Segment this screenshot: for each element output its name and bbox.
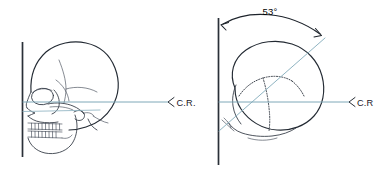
frontal-bone-profile [26, 92, 31, 108]
maxillary-teeth-occlusal-line [28, 129, 62, 130]
nasal-bone [27, 108, 35, 116]
right-panel-superior-skull: 53° C.R [219, 6, 374, 165]
cranial-vault-outline [31, 42, 118, 130]
central-ray-arrowhead-left [168, 98, 174, 107]
left-panel-lateral-skull: C.R. [23, 42, 196, 157]
mandible-angle-detail [62, 135, 72, 138]
skull-positioning-figure: C.R. 53° [0, 0, 376, 172]
central-ray-label-right: C.R [357, 98, 374, 108]
mandibular-teeth [32, 131, 57, 138]
maxilla-body [28, 116, 58, 123]
central-ray-label-left: C.R. [177, 98, 196, 108]
mandibular-alveolar-ridge [28, 137, 62, 138]
maxillary-alveolar-ridge [28, 123, 62, 124]
angle-label: 53° [263, 6, 278, 17]
cranial-vault-superior-outline [232, 41, 323, 130]
angle-arrowhead-left [221, 23, 229, 31]
mandible-superior-arc [248, 138, 277, 140]
central-ray-arrowhead-right [349, 98, 355, 107]
angle-arc [223, 14, 320, 34]
maxillary-teeth [32, 123, 60, 130]
figure-canvas: C.R. 53° [0, 0, 376, 172]
mandibular-teeth-occlusal-line [28, 131, 62, 132]
